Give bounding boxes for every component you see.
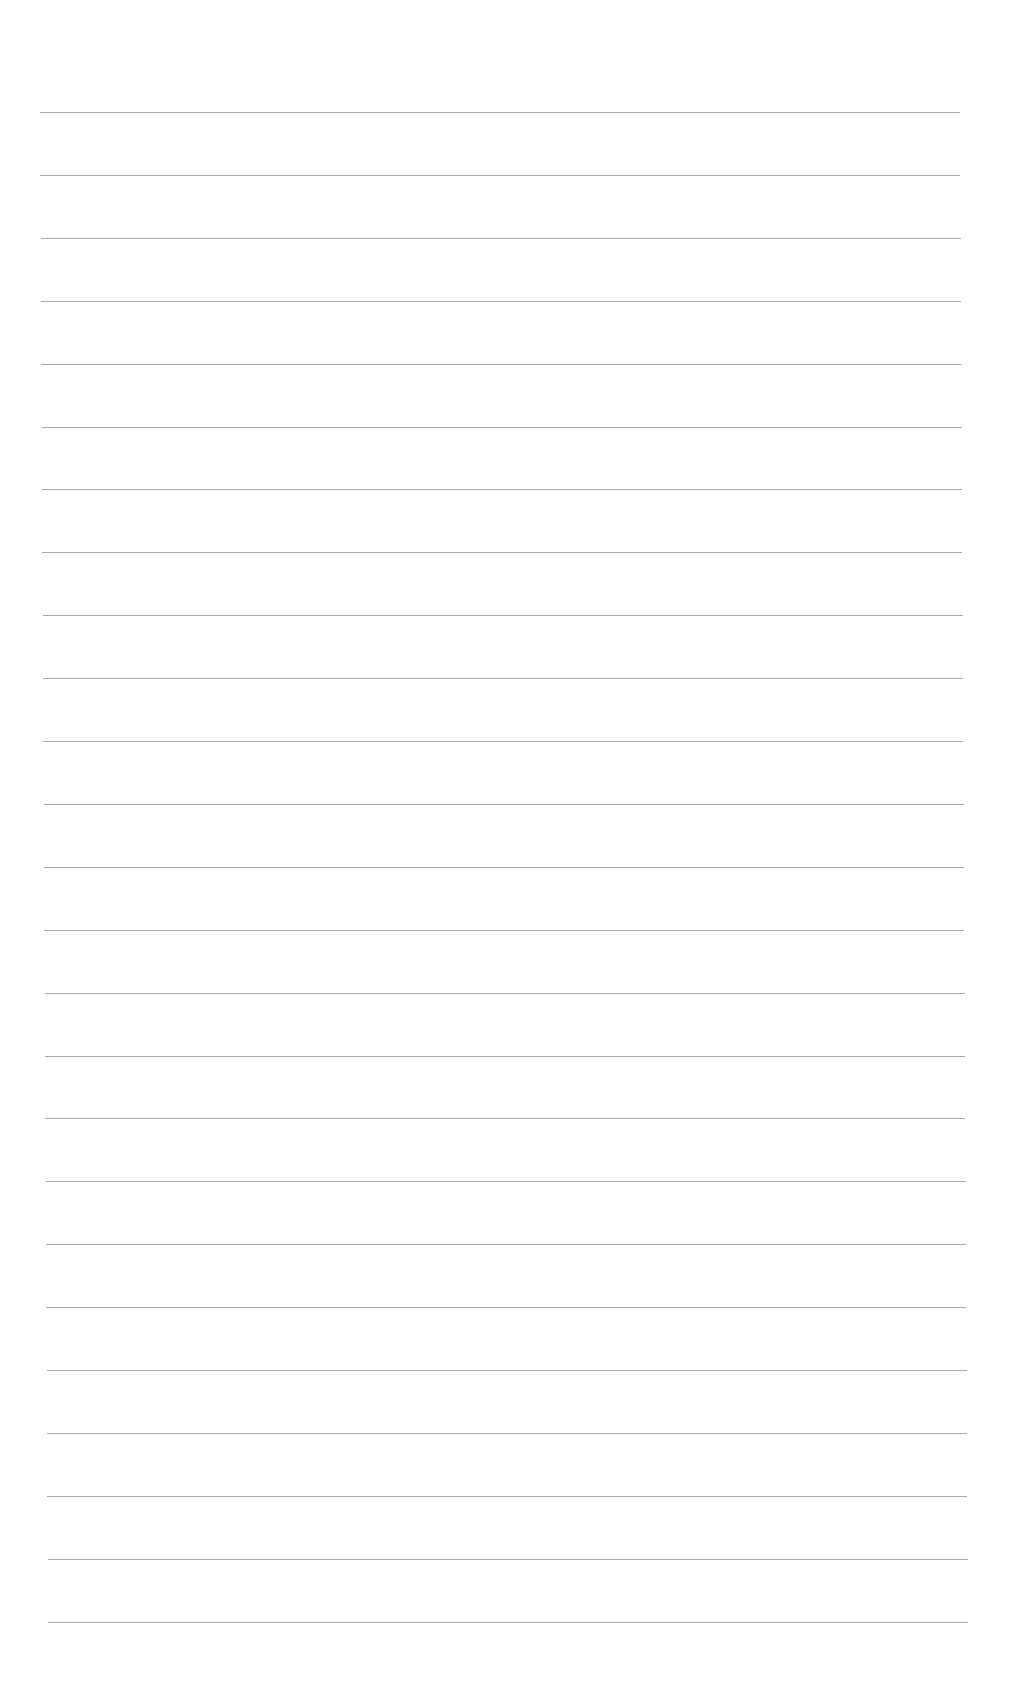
ruled-line [48,1622,968,1623]
ruled-line [47,1496,967,1497]
ruled-line [42,427,962,428]
ruled-line [48,1559,968,1560]
ruled-line [45,1056,965,1057]
ruled-line [40,112,960,113]
ruled-line [46,1307,966,1308]
ruled-line [44,930,964,931]
ruled-line [46,1181,966,1182]
ruled-line [43,615,963,616]
ruled-line [46,1244,966,1245]
ruled-line [42,489,962,490]
ruled-line [44,867,964,868]
ruled-line [47,1433,967,1434]
ruled-line [41,238,961,239]
ruled-line [43,741,963,742]
ruled-line [45,1118,965,1119]
ruled-line [42,552,962,553]
ruled-line [44,804,964,805]
ruled-line [47,1370,967,1371]
ruled-line [45,993,965,994]
lined-paper-sheet [0,0,1016,1700]
ruled-line [43,678,963,679]
ruled-line [41,301,961,302]
ruled-line [40,175,960,176]
ruled-line [41,364,961,365]
